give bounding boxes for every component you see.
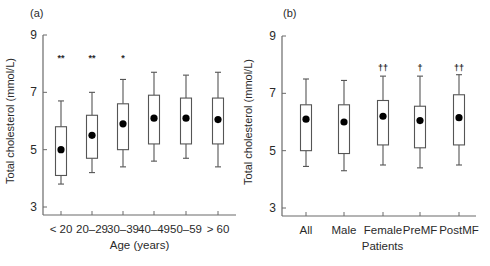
panel-label: (b) [283, 7, 296, 19]
y-tick-label: 7 [269, 86, 276, 100]
y-tick-label: 7 [30, 85, 37, 99]
significance-marker: †† [454, 63, 464, 73]
mean-marker [379, 113, 386, 120]
iqr-box [378, 101, 389, 145]
x-tick-label: > 60 [207, 223, 230, 235]
y-tick-label: 9 [269, 29, 276, 43]
mean-marker [119, 120, 126, 127]
y-tick-label: 3 [30, 200, 37, 214]
y-tick-label: 5 [269, 144, 276, 158]
x-tick-label: 30–39 [107, 223, 139, 235]
x-tick-label: PreMF [403, 224, 438, 236]
y-tick-label: 5 [30, 143, 37, 157]
iqr-box [415, 106, 426, 148]
box-0 [301, 79, 312, 166]
box-0 [56, 101, 67, 184]
box-4 [181, 75, 192, 158]
significance-marker: * [121, 53, 125, 63]
x-tick-label: PostMF [439, 224, 479, 236]
x-tick-label: 20–29 [76, 223, 108, 235]
x-tick-label: 40–49 [138, 223, 170, 235]
significance-marker: † [417, 63, 422, 73]
x-tick-label: Male [332, 224, 357, 236]
box-1 [339, 80, 350, 170]
iqr-box [339, 105, 350, 154]
box-3 [149, 72, 160, 161]
box-2 [118, 79, 129, 166]
box-2 [378, 76, 389, 165]
panel-b: (b)3579Total cholesterol (mmol/L)AllMale… [242, 7, 479, 252]
panel-a: (a)3579Total cholesterol (mmol/L)< 20**2… [4, 7, 236, 251]
significance-marker: ** [57, 53, 65, 63]
significance-marker: †† [378, 63, 388, 73]
box-3 [415, 76, 426, 168]
boxplot-figure: (a)3579Total cholesterol (mmol/L)< 20**2… [0, 0, 490, 266]
mean-marker [416, 117, 423, 124]
panel-label: (a) [30, 7, 43, 19]
x-tick-label: Female [364, 224, 402, 236]
mean-marker [88, 132, 95, 139]
mean-marker [57, 146, 64, 153]
mean-marker [302, 116, 309, 123]
mean-marker [455, 114, 462, 121]
x-axis-label: Patients [362, 240, 404, 252]
significance-marker: ** [88, 53, 96, 63]
x-tick-label: 50–59 [170, 223, 202, 235]
box-1 [87, 92, 98, 172]
y-tick-label: 9 [30, 28, 37, 42]
mean-marker [214, 116, 221, 123]
y-axis-label: Total cholesterol (mmol/L) [4, 58, 16, 184]
x-tick-label: All [300, 224, 313, 236]
figure: (a)3579Total cholesterol (mmol/L)< 20**2… [0, 0, 490, 266]
mean-marker [182, 115, 189, 122]
mean-marker [150, 115, 157, 122]
x-tick-label: < 20 [50, 223, 73, 235]
box-5 [213, 72, 224, 167]
y-axis-label: Total cholesterol (mmol/L) [242, 59, 254, 185]
box-4 [454, 75, 465, 165]
x-axis-label: Age (years) [110, 239, 170, 251]
iqr-box [301, 105, 312, 151]
mean-marker [340, 118, 347, 125]
y-tick-label: 3 [269, 201, 276, 215]
